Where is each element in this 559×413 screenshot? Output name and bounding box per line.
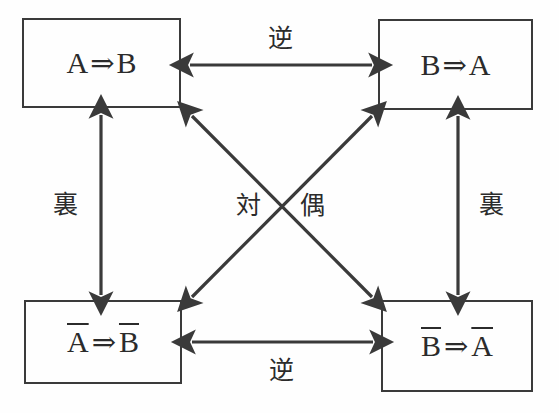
implication-sign-converse: ⇒ bbox=[441, 49, 469, 81]
implication-sign-contrapositive: ⇒ bbox=[442, 330, 470, 362]
proposition-box-contrapositive: B⇒A bbox=[381, 300, 533, 392]
edge-label-left-inverse: 裏 bbox=[45, 192, 85, 217]
consequent-inverse: B bbox=[118, 325, 140, 358]
consequent-contrapositive: A bbox=[470, 329, 494, 362]
edge-label-top-converse: 逆 bbox=[260, 26, 300, 51]
edge-label-right-inverse: 裏 bbox=[471, 192, 511, 217]
proposition-box-original: A⇒B bbox=[22, 18, 181, 108]
antecedent-original: A bbox=[67, 46, 89, 79]
antecedent-inverse: A bbox=[66, 325, 90, 358]
logic-relation-diagram: A⇒B B⇒A A⇒B B⇒A 逆 逆 裏 裏 対 偶 bbox=[0, 0, 559, 413]
antecedent-contrapositive: B bbox=[420, 329, 442, 362]
edge-label-bottom-converse: 逆 bbox=[261, 358, 301, 383]
proposition-box-converse: B⇒A bbox=[378, 19, 533, 110]
proposition-text-original: A⇒B bbox=[67, 48, 137, 78]
edge-label-diagonal-tai: 対 bbox=[228, 193, 268, 218]
implication-sign-original: ⇒ bbox=[88, 47, 116, 79]
proposition-text-converse: B⇒A bbox=[421, 50, 491, 80]
antecedent-converse: B bbox=[421, 48, 441, 81]
edge-label-diagonal-guu: 偶 bbox=[292, 193, 332, 218]
proposition-text-contrapositive: B⇒A bbox=[420, 331, 494, 361]
proposition-text-inverse: A⇒B bbox=[66, 327, 140, 357]
proposition-box-inverse: A⇒B bbox=[24, 300, 182, 384]
consequent-converse: A bbox=[469, 48, 491, 81]
implication-sign-inverse: ⇒ bbox=[90, 326, 118, 358]
consequent-original: B bbox=[116, 46, 136, 79]
